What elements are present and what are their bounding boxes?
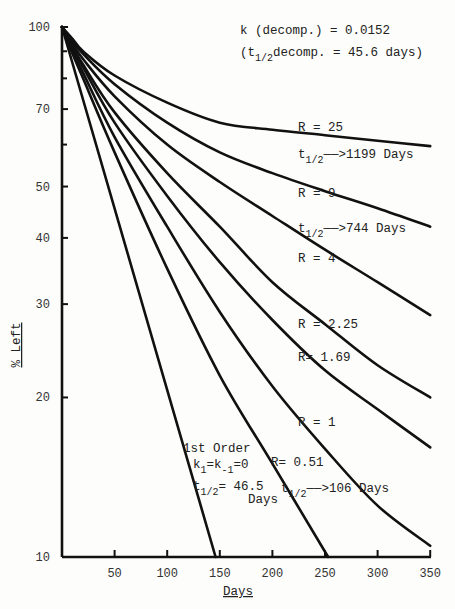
x-axis-ticks: 50100150200250300350 — [107, 550, 441, 581]
y-tick-label: 100 — [28, 21, 50, 35]
label-r9-half-life: t1/2——>744 Days — [298, 222, 406, 240]
label-r25-half-life: t1/2——>1199 Days — [298, 148, 414, 166]
curve-r-2-25 — [62, 27, 430, 397]
x-tick-label: 300 — [367, 567, 389, 581]
curves — [62, 27, 430, 557]
x-tick-label: 350 — [419, 567, 441, 581]
label-r25: R = 25 — [298, 121, 343, 135]
x-tick-label: 150 — [209, 567, 231, 581]
x-tick-label: 200 — [262, 567, 284, 581]
y-tick-label: 70 — [36, 103, 50, 117]
label-r051-half-life: t1/2——>106 Days — [281, 482, 389, 500]
x-tick-label: 250 — [314, 567, 336, 581]
curve-r-0-51 — [62, 27, 328, 557]
y-tick-label: 20 — [36, 391, 50, 405]
x-tick-label: 100 — [156, 567, 178, 581]
label-r051: R= 0.51 — [271, 456, 324, 470]
decay-chart: 102030405070100 50100150200250300350 Day… — [0, 0, 455, 609]
curve-1st-order-k1-k-1-0 — [62, 27, 216, 557]
label-r9: R = 9 — [298, 187, 336, 201]
decomp-half-life-annotation: (t1/2decomp. = 45.6 days) — [240, 46, 423, 64]
y-tick-label: 10 — [36, 551, 50, 565]
label-first-order: 1st Order — [183, 442, 251, 456]
y-tick-label: 40 — [36, 232, 50, 246]
decomp-k-annotation: k (decomp.) = 0.0152 — [240, 24, 390, 38]
x-axis-title: Days — [223, 585, 253, 599]
label-r169: R= 1.69 — [298, 351, 351, 365]
x-tick-label: 50 — [107, 567, 121, 581]
label-first-order-days: Days — [248, 493, 278, 507]
y-axis-title: % Left — [10, 322, 24, 367]
label-r1: R = 1 — [298, 416, 336, 430]
y-tick-label: 50 — [36, 181, 50, 195]
label-first-order-k: k1=k-1=0 — [193, 458, 249, 476]
y-tick-label: 30 — [36, 298, 50, 312]
label-r225: R = 2.25 — [298, 318, 358, 332]
curve-r-4 — [62, 27, 430, 315]
label-r4: R = 4 — [298, 252, 336, 266]
curve-r-1-69 — [62, 27, 430, 447]
